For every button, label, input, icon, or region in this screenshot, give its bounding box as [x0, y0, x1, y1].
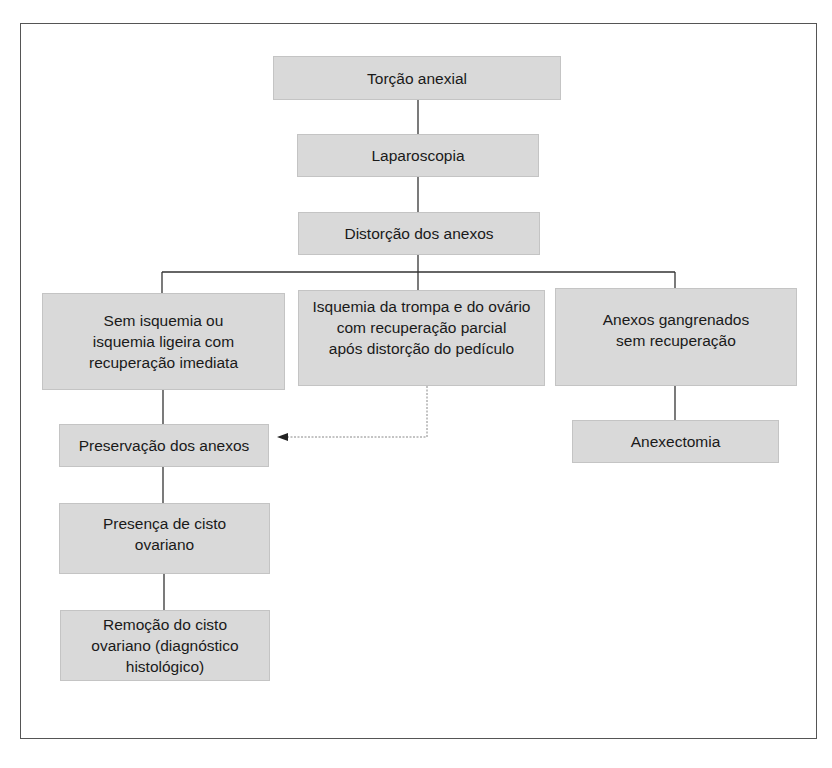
node-anexectomia: Anexectomia — [572, 420, 779, 463]
node-anexos-gangrenados: Anexos gangrenados sem recuperação — [555, 288, 797, 386]
node-distorcao-anexos: Distorção dos anexos — [298, 212, 540, 255]
node-sem-isquemia: Sem isquemia ou isquemia ligeira com rec… — [42, 293, 285, 390]
node-torcao-anexial: Torção anexial — [273, 56, 561, 100]
node-remocao-cisto: Remoção do cisto ovariano (diagnóstico h… — [60, 610, 270, 681]
node-presenca-cisto: Presença de cisto ovariano — [59, 503, 270, 574]
node-preservacao-anexos: Preservação dos anexos — [59, 424, 269, 467]
node-isquemia-parcial: Isquemia da trompa e do ovário com recup… — [298, 290, 545, 386]
node-laparoscopia: Laparoscopia — [297, 134, 539, 177]
arrow-head-icon — [277, 433, 288, 441]
